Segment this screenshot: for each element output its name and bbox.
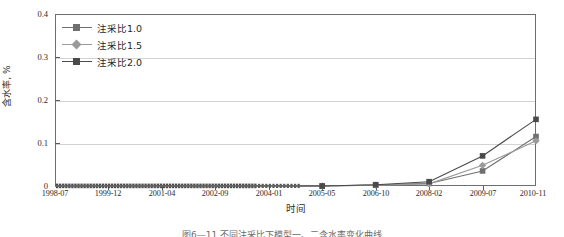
square-marker-icon (480, 153, 486, 159)
legend: 注采比1.0 注采比1.5 注采比2.0 (62, 20, 142, 71)
legend-label: 注采比2.0 (97, 55, 142, 69)
series-line (55, 141, 536, 186)
legend-item-zhucaibi-2-0[interactable]: 注采比2.0 (62, 54, 142, 69)
square-marker-icon (426, 179, 432, 185)
legend-swatch (62, 39, 92, 50)
figure-caption: 图6—11 不同注采比下模型一、二含水率变化曲线 (182, 228, 382, 237)
legend-item-zhucaibi-1-0[interactable]: 注采比1.0 (62, 20, 142, 35)
square-marker-icon (73, 24, 80, 31)
square-marker-icon (73, 58, 80, 65)
legend-swatch (62, 22, 92, 33)
figure-container: 0 0.1 0.2 0.3 0.4 含水率, % 1998-07 1999-12… (0, 0, 564, 237)
square-marker-icon (373, 182, 379, 188)
diamond-marker-icon (72, 40, 82, 50)
series-line (55, 137, 536, 186)
series-3 (55, 117, 539, 189)
legend-item-zhucaibi-1-5[interactable]: 注采比1.5 (62, 37, 142, 52)
square-marker-icon (533, 117, 539, 123)
legend-label: 注采比1.0 (97, 21, 142, 35)
legend-label: 注采比1.5 (97, 38, 142, 52)
series-1 (55, 134, 539, 189)
series-line (55, 119, 536, 186)
legend-swatch (62, 56, 92, 67)
square-marker-icon (319, 183, 325, 189)
diamond-marker-icon (479, 162, 486, 169)
